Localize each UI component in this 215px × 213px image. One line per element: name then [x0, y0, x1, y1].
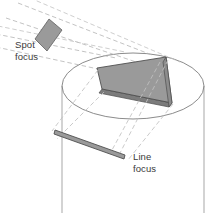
projection-ray-2	[57, 92, 104, 139]
line-focus-face	[54, 130, 125, 159]
diagram-canvas: Spot focus Line focus	[0, 0, 215, 213]
spot-focus-face	[35, 19, 62, 51]
line-focus-label: Line focus	[133, 151, 156, 174]
line-focus-label-line2: focus	[133, 163, 156, 174]
focal-track-slab	[97, 57, 172, 107]
projection-ray-1	[52, 70, 98, 131]
spot-focus-label-line2: focus	[15, 51, 38, 62]
line-focus-bar	[54, 130, 125, 159]
line-focus-principle-diagram: Spot focus Line focus	[0, 0, 215, 213]
spot-focus-label: Spot focus	[15, 39, 38, 62]
spot-focus-parallelogram	[35, 19, 62, 51]
line-focus-label-line1: Line	[133, 151, 151, 162]
spot-focus-label-line1: Spot	[15, 39, 35, 50]
beam-ray-3	[18, 3, 152, 55]
